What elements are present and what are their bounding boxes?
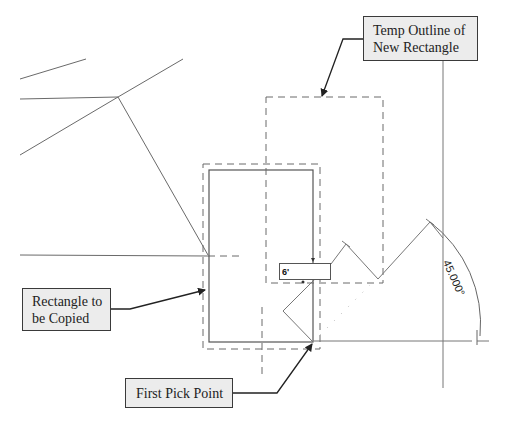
copy-vector-zigzag-2: [331, 222, 443, 279]
callout-rectangle-to-copy: Rectangle to be Copied: [22, 288, 111, 331]
snap-marker: [302, 281, 305, 284]
snap-marker: [311, 258, 315, 262]
temp-outline-rectangle: [266, 97, 383, 283]
pick-point-arrow: [233, 344, 312, 393]
tick-mark: [342, 241, 350, 247]
callout-rect-line1: Rectangle to: [32, 293, 101, 310]
callout-first-pick-point: First Pick Point: [125, 378, 233, 408]
existing-geometry: [20, 59, 208, 256]
drawing-canvas[interactable]: [0, 0, 506, 424]
length-input[interactable]: [279, 263, 331, 280]
callout-pick-label: First Pick Point: [136, 385, 222, 402]
temp-outline-arrow: [322, 39, 363, 96]
callout-temp-outline: Temp Outline of New Rectangle: [363, 16, 478, 61]
rectangle-arrow: [111, 290, 205, 309]
callout-temp-line2: New Rectangle: [373, 39, 468, 56]
callout-temp-line1: Temp Outline of: [373, 22, 468, 39]
callout-rect-line2: be Copied: [32, 310, 101, 327]
angle-guide-dotted: [313, 285, 370, 342]
